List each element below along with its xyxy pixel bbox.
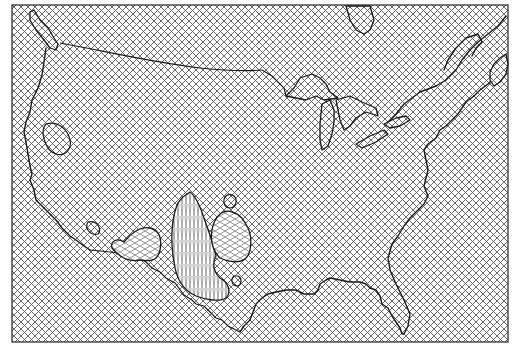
small-contour-b <box>232 276 241 286</box>
map-frame <box>12 5 508 342</box>
small-contour-a <box>224 194 236 208</box>
map-container: United States contour map <box>0 0 515 347</box>
us-map <box>0 0 515 347</box>
